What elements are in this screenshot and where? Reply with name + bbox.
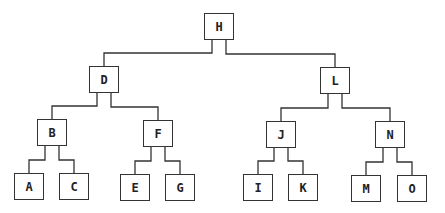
node-g: G [165,174,195,201]
node-d: D [89,66,119,93]
node-i: I [243,174,273,201]
node-f: F [143,120,173,147]
node-j: J [266,121,296,148]
node-b: B [37,119,67,146]
node-l: L [320,67,350,94]
node-h: H [204,13,234,40]
node-m: M [351,175,381,202]
node-a: A [14,173,44,200]
node-n: N [375,121,405,148]
node-k: K [288,174,318,201]
node-o: O [397,175,427,202]
node-c: C [59,173,89,200]
node-e: E [120,174,150,201]
